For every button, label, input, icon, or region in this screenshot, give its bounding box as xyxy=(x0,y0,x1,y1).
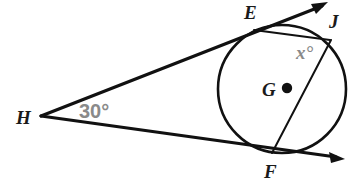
label-point-e: E xyxy=(243,2,257,23)
tangent-line-hf xyxy=(41,116,336,157)
label-point-h: H xyxy=(15,107,32,128)
label-angle-x: x° xyxy=(295,42,314,63)
geometry-canvas: E J G F H 30° x° xyxy=(0,0,350,189)
label-point-g: G xyxy=(262,79,276,100)
label-angle-h: 30° xyxy=(79,100,109,122)
arrowhead-lower-right xyxy=(329,152,345,163)
center-point-dot xyxy=(282,83,292,93)
geometry-figure: E J G F H 30° x° xyxy=(0,0,350,189)
label-point-f: F xyxy=(263,161,277,182)
arrowhead-upper-right xyxy=(311,2,328,14)
label-point-j: J xyxy=(328,11,339,32)
